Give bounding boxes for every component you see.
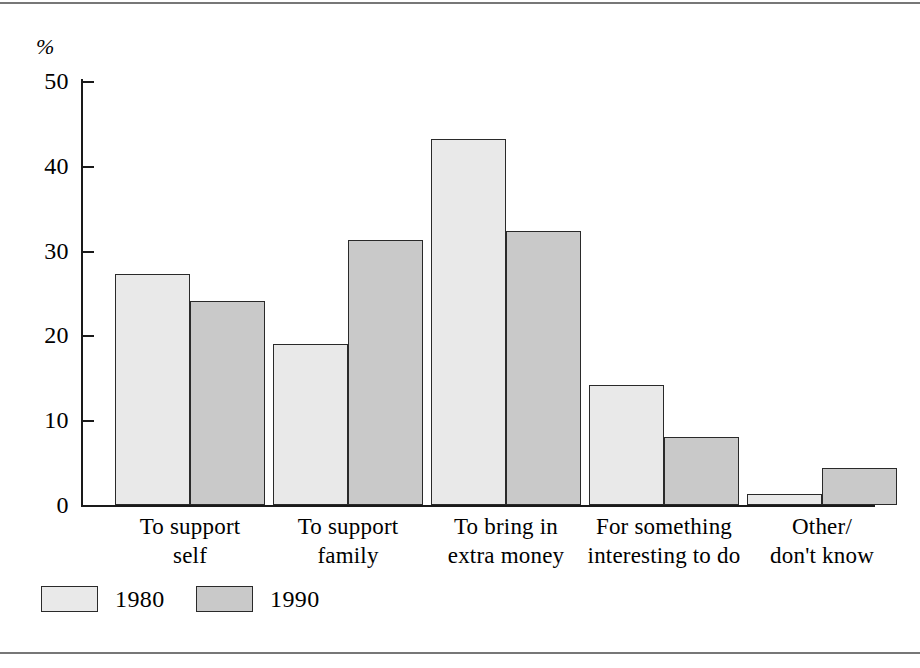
- y-axis-tick-label-50: 50: [13, 69, 69, 93]
- bar-1980-group-1: [115, 274, 190, 506]
- x-axis-line: [81, 505, 875, 507]
- y-axis-tick-0: [83, 505, 94, 507]
- y-axis-tick-label-20: 20: [13, 323, 69, 347]
- top-divider-rule: [0, 2, 920, 4]
- legend-label-1990: 1990: [270, 587, 320, 611]
- y-axis-tick-label-0: 0: [13, 493, 69, 517]
- bar-1990-group-3: [506, 231, 581, 505]
- plot-area: [81, 81, 875, 505]
- y-axis-tick-label-10: 10: [13, 408, 69, 432]
- legend-swatch-1980: [41, 586, 98, 612]
- y-axis-unit-label: %: [36, 36, 54, 58]
- bottom-divider-rule: [0, 652, 920, 654]
- x-axis-label-group-5: Other/ don't know: [712, 512, 920, 570]
- y-axis-tick-label-40: 40: [13, 154, 69, 178]
- bar-1990-group-1: [190, 301, 265, 505]
- legend-item-1980[interactable]: 1980: [41, 582, 165, 616]
- bar-1990-group-5: [822, 468, 897, 505]
- legend-label-1980: 1980: [115, 587, 165, 611]
- legend-swatch-1990: [196, 586, 253, 612]
- bar-1990-group-2: [348, 240, 423, 505]
- figure-bar-chart: % 01020304050 To support selfTo support …: [0, 0, 920, 668]
- bar-1980-group-2: [273, 344, 348, 505]
- bar-1980-group-4: [589, 385, 664, 505]
- bar-1980-group-3: [431, 139, 506, 505]
- legend-item-1990[interactable]: 1990: [196, 582, 320, 616]
- y-axis-tick-label-30: 30: [13, 239, 69, 263]
- bar-1990-group-4: [664, 437, 739, 505]
- bar-1980-group-5: [747, 494, 822, 505]
